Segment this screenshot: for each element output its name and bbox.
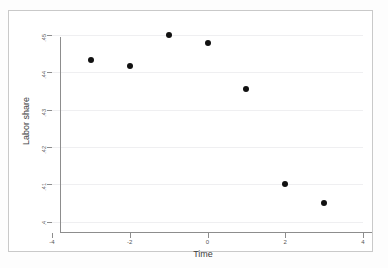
data-point xyxy=(127,63,133,69)
data-point xyxy=(243,86,249,92)
x-axis-title: Time xyxy=(9,249,388,259)
data-point xyxy=(321,200,327,206)
data-point xyxy=(166,32,172,38)
chart-page: .45.44.43.42.41.4 -4-2024 Time Labor sha… xyxy=(0,0,388,268)
y-axis-title: Labor share xyxy=(21,56,31,186)
data-point xyxy=(205,40,211,46)
data-point xyxy=(282,181,288,187)
data-point xyxy=(88,57,94,63)
plot-area xyxy=(9,11,374,253)
graph-frame: .45.44.43.42.41.4 -4-2024 Time Labor sha… xyxy=(8,10,373,252)
